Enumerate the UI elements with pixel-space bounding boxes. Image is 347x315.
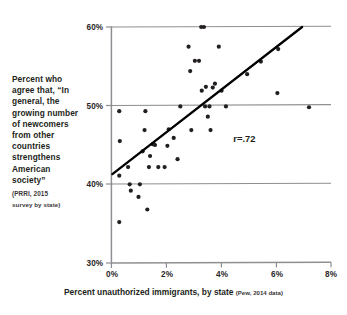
y-tick-labels: 60% 50% 40% 30% (87, 23, 104, 268)
data-point (178, 104, 182, 108)
data-points (117, 25, 311, 224)
gridlines (111, 26, 331, 184)
data-point (245, 72, 249, 76)
data-point (163, 165, 167, 169)
data-point (117, 109, 121, 113)
data-point (156, 165, 160, 169)
data-point (208, 128, 212, 132)
data-point (128, 182, 132, 186)
data-point (189, 128, 193, 132)
data-point (118, 139, 122, 143)
x-tick-label-0: 0% (106, 270, 119, 279)
data-point (147, 165, 151, 169)
data-point (207, 104, 211, 108)
x-tick-label-8: 8% (325, 270, 338, 279)
data-point (117, 174, 121, 178)
axes (111, 26, 331, 263)
gridline-40 (111, 183, 331, 184)
data-point (175, 157, 179, 161)
trend-line-segment (112, 27, 302, 174)
data-point (197, 59, 201, 63)
data-point (202, 25, 206, 29)
data-point (213, 82, 217, 86)
gridline-50 (111, 105, 331, 106)
data-point (145, 207, 149, 211)
x-tick-label-6: 6% (271, 270, 284, 279)
x-tick-labels: 0% 2% 4% 6% 8% (106, 270, 338, 279)
data-point (275, 91, 279, 95)
data-point (129, 189, 133, 193)
data-point (142, 128, 146, 132)
trend-line (112, 27, 302, 174)
y-tick-label-40: 40% (87, 180, 104, 189)
data-point (217, 45, 221, 49)
x-axis-title-note: (Pew, 2014 data) (236, 289, 283, 296)
scatter-plot-figure: Percent who agree that, “In general, the… (0, 0, 347, 315)
gridline-60 (111, 26, 331, 27)
y-tick-label-50: 50% (87, 102, 104, 111)
data-point (203, 104, 207, 108)
data-point (117, 220, 121, 224)
correlation-annotation: r=.72 (233, 133, 255, 144)
y-tick-label-30: 30% (87, 259, 104, 268)
data-point (136, 195, 140, 199)
data-point (200, 89, 204, 93)
data-point (186, 45, 190, 49)
data-point (206, 115, 210, 119)
y-tick-marks (106, 27, 111, 263)
x-tick-label-2: 2% (161, 270, 174, 279)
data-point (188, 69, 192, 73)
data-point (165, 144, 169, 148)
y-tick-label-60: 60% (87, 23, 104, 32)
data-point (138, 182, 142, 186)
x-tick-label-4: 4% (216, 270, 229, 279)
data-point (172, 136, 176, 140)
data-point (126, 165, 130, 169)
data-point (307, 105, 311, 109)
plot-canvas: 60% 50% 40% 30% 0% 2% 4% 6% 8% r=.72 (0, 0, 347, 315)
x-axis-title: Percent unauthorized immigrants, by stat… (0, 287, 347, 297)
data-point (148, 154, 152, 158)
data-point (143, 109, 147, 113)
data-point (204, 85, 208, 89)
x-axis-title-text: Percent unauthorized immigrants, by stat… (64, 287, 233, 297)
data-point (224, 104, 228, 108)
data-point (211, 85, 215, 89)
data-point (193, 59, 197, 63)
